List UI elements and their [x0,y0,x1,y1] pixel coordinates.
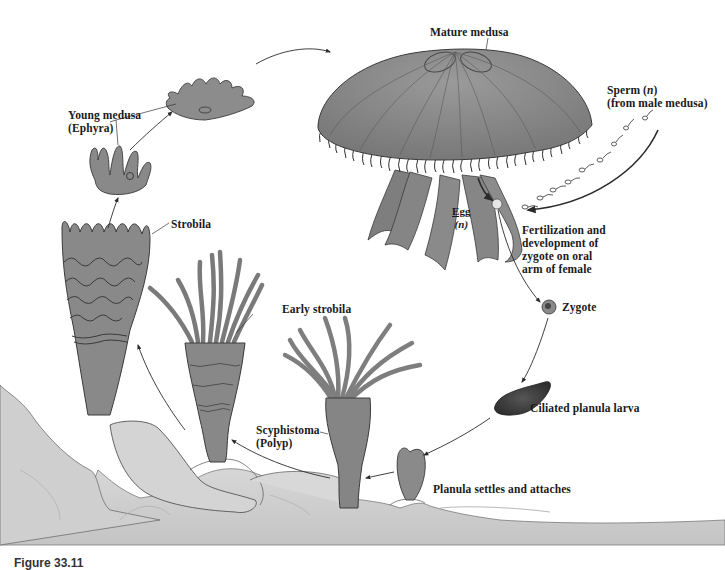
figure-number: Figure 33.11 [14,556,83,570]
sperm-label-line1: Sperm (n) [607,84,708,97]
zygote-illustration [542,300,556,314]
label-egg: Egg (n) [452,205,471,231]
label-mature-medusa: Mature medusa [430,26,509,39]
label-scyphistoma: Scyphistoma (Polyp) [256,424,320,450]
label-fertilization: Fertilization and development of zygote … [522,224,606,276]
label-young-medusa: Young medusa (Ephyra) [68,109,141,135]
label-zygote: Zygote [562,301,596,314]
label-early-strobila: Early strobila [282,303,351,316]
early-strobila-illustration [150,252,262,462]
settled-planula-illustration [397,448,425,500]
ephyra-large-illustration [166,78,254,120]
egg-cell [492,199,502,209]
figure-caption: Figure 33.11 [14,556,91,570]
label-planula-settles: Planula settles and attaches [433,483,571,496]
label-ciliated-planula-larva: Ciliated planula larva [530,402,640,415]
label-sperm: Sperm (n) (from male medusa) [607,84,708,110]
label-strobila: Strobila [171,218,211,231]
ephyra-small-illustration [90,146,151,195]
sperm-label-line2: (from male medusa) [607,97,708,110]
strobila-illustration [62,222,150,415]
